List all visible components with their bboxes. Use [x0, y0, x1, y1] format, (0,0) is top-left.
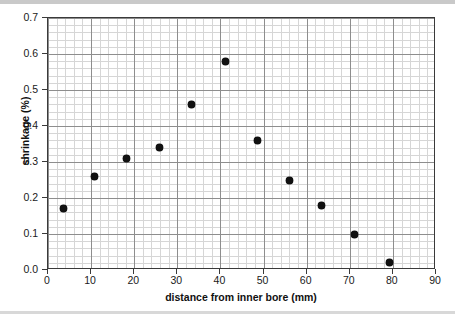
gridline-minor-horizontal	[48, 83, 434, 84]
gridline-major-horizontal	[48, 126, 434, 127]
gridline-minor-vertical	[169, 18, 170, 268]
gridline-minor-horizontal	[48, 176, 434, 177]
x-axis-tick-label: 0	[27, 274, 67, 286]
gridline-minor-vertical	[341, 18, 342, 268]
gridline-minor-vertical	[315, 18, 316, 268]
data-point	[222, 58, 229, 65]
y-axis-tick	[42, 53, 47, 54]
scatter-chart-figure: 0102030405060708090 0.00.10.20.30.40.50.…	[0, 0, 455, 314]
gridline-minor-vertical	[134, 18, 135, 268]
gridline-minor-vertical	[74, 18, 75, 268]
gridline-minor-vertical	[238, 18, 239, 268]
x-axis-tick-label: 70	[329, 274, 369, 286]
gridline-minor-vertical	[350, 18, 351, 268]
gridline-major-vertical	[220, 18, 221, 268]
gridline-minor-horizontal	[48, 227, 434, 228]
gridline-minor-horizontal	[48, 220, 434, 221]
plot-area	[47, 17, 435, 269]
x-axis-tick-label: 10	[70, 274, 110, 286]
gridline-minor-horizontal	[48, 54, 434, 55]
gridline-minor-vertical	[177, 18, 178, 268]
y-axis-tick-label: 0.0	[0, 263, 38, 275]
gridline-minor-vertical	[246, 18, 247, 268]
gridline-minor-vertical	[126, 18, 127, 268]
gridline-major-horizontal	[48, 18, 434, 19]
gridline-minor-vertical	[358, 18, 359, 268]
y-axis-tick	[42, 17, 47, 18]
gridline-minor-vertical	[281, 18, 282, 268]
x-axis-tick-label: 80	[372, 274, 412, 286]
gridline-minor-vertical	[324, 18, 325, 268]
gridline-major-horizontal	[48, 54, 434, 55]
gridline-major-vertical	[307, 18, 308, 268]
gridline-minor-vertical	[151, 18, 152, 268]
y-axis-tick	[42, 269, 47, 270]
x-axis-title: distance from inner bore (mm)	[47, 291, 435, 303]
gridline-minor-vertical	[48, 18, 49, 268]
data-point	[286, 177, 293, 184]
gridline-minor-horizontal	[48, 104, 434, 105]
y-axis-tick	[42, 233, 47, 234]
gridline-minor-horizontal	[48, 32, 434, 33]
gridline-minor-vertical	[203, 18, 204, 268]
x-axis-tick-label: 30	[156, 274, 196, 286]
gridline-major-vertical	[264, 18, 265, 268]
gridline-minor-vertical	[298, 18, 299, 268]
gridline-minor-horizontal	[48, 97, 434, 98]
gridline-minor-vertical	[384, 18, 385, 268]
gridline-major-vertical	[393, 18, 394, 268]
gridline-minor-vertical	[82, 18, 83, 268]
gridline-minor-horizontal	[48, 90, 434, 91]
y-axis-tick-label: 0.7	[0, 11, 38, 23]
y-axis-tick	[42, 197, 47, 198]
gridline-minor-horizontal	[48, 18, 434, 19]
gridline-major-vertical	[91, 18, 92, 268]
gridline-minor-horizontal	[48, 76, 434, 77]
gridline-minor-vertical	[410, 18, 411, 268]
gridline-minor-horizontal	[48, 169, 434, 170]
gridline-minor-horizontal	[48, 126, 434, 127]
gridline-minor-horizontal	[48, 263, 434, 264]
gridline-major-vertical	[177, 18, 178, 268]
data-point	[351, 231, 358, 238]
gridline-minor-vertical	[367, 18, 368, 268]
gridline-minor-horizontal	[48, 148, 434, 149]
gridline-minor-horizontal	[48, 191, 434, 192]
gridline-minor-vertical	[264, 18, 265, 268]
gridline-minor-vertical	[333, 18, 334, 268]
gridline-minor-horizontal	[48, 25, 434, 26]
gridline-minor-vertical	[186, 18, 187, 268]
gridline-major-vertical	[134, 18, 135, 268]
data-point-layer	[48, 18, 434, 268]
minor-gridlines	[48, 18, 434, 268]
gridline-minor-horizontal	[48, 198, 434, 199]
y-axis-tick	[42, 89, 47, 90]
gridline-minor-horizontal	[48, 241, 434, 242]
gridline-minor-vertical	[160, 18, 161, 268]
gridline-minor-horizontal	[48, 256, 434, 257]
major-gridlines	[48, 18, 434, 268]
gridline-minor-vertical	[419, 18, 420, 268]
x-axis-tick-label: 50	[243, 274, 283, 286]
gridline-minor-horizontal	[48, 162, 434, 163]
gridline-major-horizontal	[48, 234, 434, 235]
gridline-major-vertical	[350, 18, 351, 268]
gridline-minor-vertical	[307, 18, 308, 268]
gridline-minor-vertical	[376, 18, 377, 268]
data-point	[91, 173, 98, 180]
gridline-minor-vertical	[427, 18, 428, 268]
gridline-minor-vertical	[272, 18, 273, 268]
y-axis-tick	[42, 125, 47, 126]
gridline-minor-horizontal	[48, 205, 434, 206]
gridline-minor-vertical	[393, 18, 394, 268]
gridline-major-vertical	[48, 18, 49, 268]
gridline-minor-vertical	[229, 18, 230, 268]
gridline-minor-horizontal	[48, 140, 434, 141]
gridline-minor-vertical	[289, 18, 290, 268]
y-axis-tick-label: 0.6	[0, 47, 38, 59]
gridline-minor-vertical	[402, 18, 403, 268]
x-axis-tick-label: 60	[286, 274, 326, 286]
data-point	[156, 144, 163, 151]
gridline-minor-vertical	[255, 18, 256, 268]
data-point	[60, 205, 67, 212]
